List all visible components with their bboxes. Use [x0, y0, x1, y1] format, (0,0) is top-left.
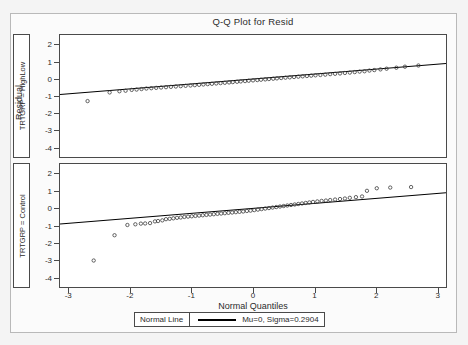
- y-tick-label: 2: [30, 40, 52, 49]
- x-tick-mark: [438, 288, 439, 293]
- strip-label-control: TRTGRP = Control: [13, 163, 30, 288]
- legend-series-label: Mu=0, Sigma=0.2904: [242, 315, 319, 324]
- y-axis-label: Residual: [14, 85, 24, 120]
- legend-line-swatch: [198, 319, 236, 321]
- y-tick-label: -4: [30, 143, 52, 152]
- x-tick-mark: [315, 288, 316, 293]
- x-tick-mark: [68, 288, 69, 293]
- x-tick-mark: [130, 288, 131, 293]
- x-tick-mark: [191, 288, 192, 293]
- y-tick-label: 0: [30, 74, 52, 83]
- x-tick-mark: [376, 288, 377, 293]
- panel-highlow: [59, 34, 447, 158]
- legend: Normal Line Mu=0, Sigma=0.2904: [134, 312, 325, 327]
- y-tick-mark: [54, 278, 59, 279]
- y-tick-mark: [54, 173, 59, 174]
- y-tick-label: -3: [30, 256, 52, 265]
- y-tick-mark: [54, 130, 59, 131]
- x-axis-label: Normal Quantiles: [59, 301, 447, 311]
- y-tick-label: -4: [30, 273, 52, 282]
- page-title: Q-Q Plot for Resid: [59, 16, 447, 27]
- y-tick-mark: [54, 113, 59, 114]
- y-tick-label: 1: [30, 186, 52, 195]
- y-tick-label: 1: [30, 57, 52, 66]
- y-tick-mark: [54, 208, 59, 209]
- y-tick-mark: [54, 243, 59, 244]
- y-tick-mark: [54, 79, 59, 80]
- panel-control-canvas: [60, 164, 446, 287]
- y-tick-mark: [54, 226, 59, 227]
- panel-highlow-canvas: [60, 35, 446, 157]
- y-tick-mark: [54, 148, 59, 149]
- y-tick-label: -1: [30, 221, 52, 230]
- legend-label: Normal Line: [140, 315, 183, 324]
- strip-label-control-text: TRTGRP = Control: [17, 194, 26, 257]
- y-tick-mark: [54, 260, 59, 261]
- y-tick-label: -2: [30, 109, 52, 118]
- y-tick-mark: [54, 62, 59, 63]
- y-tick-label: -3: [30, 126, 52, 135]
- y-tick-label: -1: [30, 92, 52, 101]
- y-tick-mark: [54, 191, 59, 192]
- legend-divider: [189, 313, 190, 326]
- y-tick-label: 0: [30, 204, 52, 213]
- qq-plot-page: Q-Q Plot for Resid TRTGRP = HighLow TRTG…: [0, 0, 468, 345]
- y-tick-label: -2: [30, 238, 52, 247]
- y-tick-label: 2: [30, 169, 52, 178]
- y-tick-mark: [54, 96, 59, 97]
- x-tick-mark: [253, 288, 254, 293]
- panel-control: [59, 163, 447, 288]
- y-tick-mark: [54, 44, 59, 45]
